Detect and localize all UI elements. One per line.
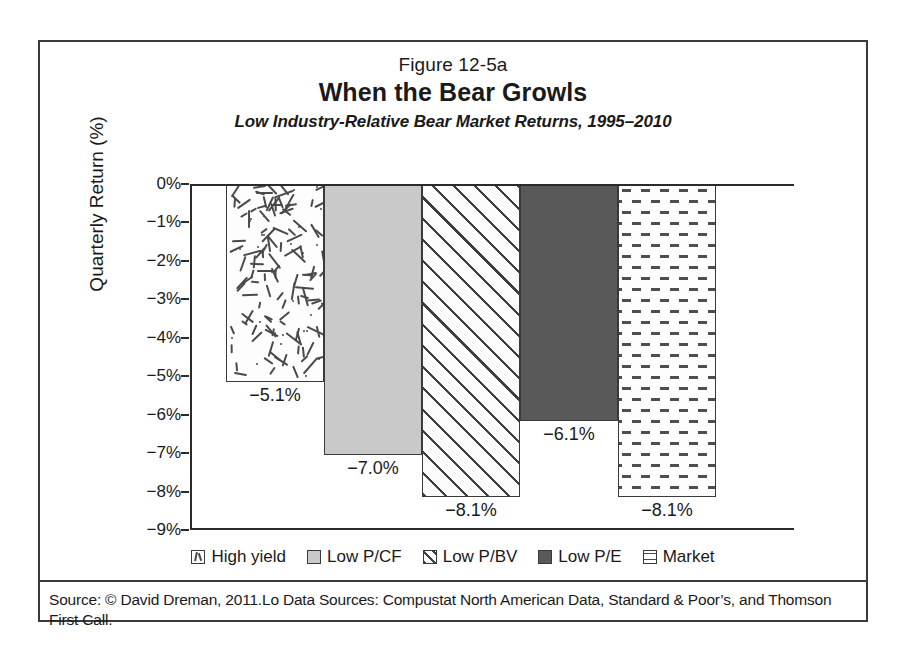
y-tick-label: −6% [147, 405, 182, 425]
plot-area: Quarterly Return (%) 0%−1%−2%−3%−4%−5%−6… [190, 184, 756, 530]
bar-value-label: −6.1% [543, 424, 595, 445]
bar-value-label: −7.0% [347, 458, 399, 479]
bar-low-p-cf: −7.0% [324, 186, 422, 455]
y-tick-mark [181, 414, 189, 416]
confetti-pattern [227, 186, 323, 381]
figure-number: Figure 12-5a [40, 54, 866, 76]
y-tick-label: −2% [147, 251, 182, 271]
bar-value-label: −5.1% [249, 385, 301, 406]
y-axis-line [190, 184, 192, 530]
source-note: Source: © David Dreman, 2011.Lo Data Sou… [49, 590, 857, 630]
legend-swatch-icon [423, 550, 437, 564]
legend-label: Low P/CF [327, 547, 402, 567]
y-tick-label: −8% [147, 482, 182, 502]
y-tick-mark [181, 183, 189, 185]
legend-swatch-icon [643, 550, 657, 564]
y-axis-title: Quarterly Return (%) [86, 74, 108, 334]
bar-high-yield: −5.1% [226, 186, 324, 382]
bar-value-label: −8.1% [445, 500, 497, 521]
y-tick-mark [181, 260, 189, 262]
legend-item-high-yield: High yield [191, 547, 286, 567]
legend-label: Low P/E [558, 547, 621, 567]
y-tick-label: 0% [156, 174, 181, 194]
y-tick-label: −7% [147, 443, 182, 463]
legend-item-market: Market [643, 547, 715, 567]
legend-swatch-icon [538, 550, 552, 564]
legend-swatch-icon [307, 550, 321, 564]
y-tick-mark [181, 491, 189, 493]
y-tick-mark [181, 337, 189, 339]
legend-item-low-p-e: Low P/E [538, 547, 621, 567]
legend-item-low-p-cf: Low P/CF [307, 547, 402, 567]
bar-market: −8.1% [618, 186, 716, 497]
y-tick-mark [181, 529, 189, 531]
figure-frame: Figure 12-5a When the Bear Growls Low In… [38, 40, 868, 622]
legend-label: Market [663, 547, 715, 567]
bar-value-label: −8.1% [641, 500, 693, 521]
y-tick-mark [181, 298, 189, 300]
bar-low-p-e: −6.1% [520, 186, 618, 421]
y-tick-mark [181, 452, 189, 454]
y-tick-label: −9% [147, 520, 182, 540]
legend-item-low-p-bv: Low P/BV [423, 547, 518, 567]
y-tick-mark [181, 221, 189, 223]
legend-label: Low P/BV [443, 547, 518, 567]
y-tick-label: −4% [147, 328, 182, 348]
y-tick-mark [181, 375, 189, 377]
y-tick-label: −5% [147, 366, 182, 386]
chart-legend: High yieldLow P/CFLow P/BVLow P/EMarket [40, 547, 866, 567]
bar-low-p-bv: −8.1% [422, 186, 520, 497]
y-tick-label: −3% [147, 289, 182, 309]
legend-swatch-icon [191, 550, 205, 564]
axis-bottom-line [190, 528, 794, 530]
figure-subtitle: Low Industry-Relative Bear Market Return… [40, 112, 866, 132]
figure-title: When the Bear Growls [40, 78, 866, 107]
legend-label: High yield [211, 547, 286, 567]
source-divider [40, 580, 866, 582]
dash-pattern [619, 186, 715, 496]
y-tick-label: −1% [147, 212, 182, 232]
